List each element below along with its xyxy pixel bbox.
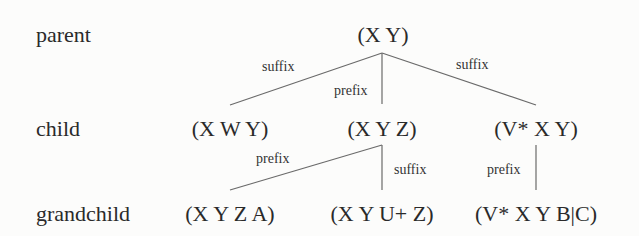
node-grandchild-3: (V* X Y B|C) xyxy=(475,203,597,225)
level-label-grandchild: grandchild xyxy=(36,203,130,225)
edge-label-child2-grandchild1: prefix xyxy=(256,152,289,166)
pattern-hierarchy-diagram: parent child grandchild (X Y) (X W Y) (X… xyxy=(0,0,639,236)
edge-child2-grandchild1 xyxy=(230,145,382,190)
edge-label-parent-child3: suffix xyxy=(456,58,488,72)
edge-label-child2-grandchild2: suffix xyxy=(394,163,426,177)
node-parent: (X Y) xyxy=(357,24,408,46)
node-child-2: (X Y Z) xyxy=(347,118,416,140)
edge-label-parent-child1: suffix xyxy=(262,60,294,74)
node-grandchild-2: (X Y U+ Z) xyxy=(330,203,433,225)
edge-label-child3-grandchild3: prefix xyxy=(487,163,520,177)
level-label-child: child xyxy=(36,118,80,140)
edge-label-parent-child2: prefix xyxy=(334,84,367,98)
node-child-1: (X W Y) xyxy=(192,118,269,140)
node-child-3: (V* X Y) xyxy=(494,118,578,140)
level-label-parent: parent xyxy=(36,24,91,46)
node-grandchild-1: (X Y Z A) xyxy=(185,203,274,225)
